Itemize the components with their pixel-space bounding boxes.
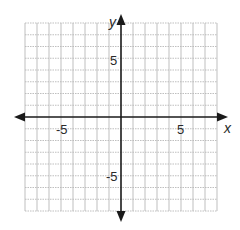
x-axis-left-arrow-icon xyxy=(14,113,25,122)
y-tick-label-neg5: -5 xyxy=(106,169,118,184)
x-tick-label-neg5: -5 xyxy=(56,122,68,137)
y-axis-down-arrow-icon xyxy=(117,211,126,222)
y-axis xyxy=(117,14,126,222)
coordinate-plane: x y -5 5 5 -5 xyxy=(0,0,240,230)
y-axis-label: y xyxy=(108,14,117,30)
x-tick-label-5: 5 xyxy=(177,122,184,137)
x-axis-label: x xyxy=(223,120,232,136)
y-tick-label-5: 5 xyxy=(110,53,117,68)
y-axis-up-arrow-icon xyxy=(117,14,126,25)
